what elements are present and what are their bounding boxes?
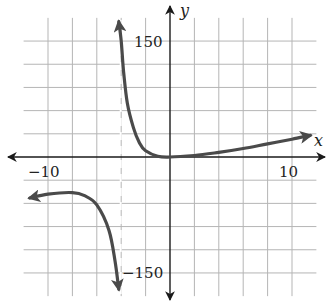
function-graph: 150 −150 −10 10 x y <box>0 0 331 301</box>
curve-left-branch <box>30 193 119 290</box>
x-min-tick-label: −10 <box>28 163 60 181</box>
y-axis-label: y <box>179 1 190 20</box>
x-max-tick-label: 10 <box>279 163 298 181</box>
y-max-tick-label: 150 <box>134 33 163 51</box>
x-axis-label: x <box>314 131 323 150</box>
y-min-tick-label: −150 <box>122 264 163 282</box>
